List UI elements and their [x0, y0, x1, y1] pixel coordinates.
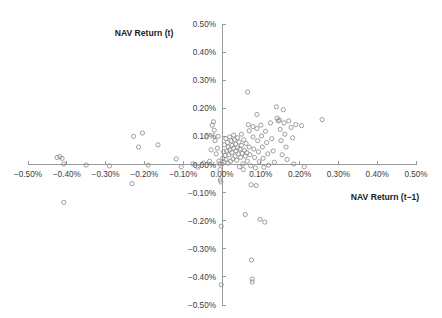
data-point: [219, 283, 223, 287]
data-point: [272, 160, 276, 164]
data-point: [251, 135, 255, 139]
data-point: [255, 126, 259, 130]
data-point: [285, 157, 289, 161]
x-tick-label: 0.50%: [404, 170, 427, 179]
data-point: [279, 139, 283, 143]
data-point: [235, 158, 239, 162]
data-point: [259, 123, 263, 127]
data-point: [146, 163, 150, 167]
data-point: [84, 163, 88, 167]
data-point: [244, 141, 248, 145]
data-point: [55, 155, 59, 159]
x-axis-ticks: −0.50%−0.40%−0.30%−0.20%−0.10%0.00%0.10%…: [14, 161, 428, 179]
data-point: [174, 157, 178, 161]
data-point: [266, 152, 270, 156]
data-point: [278, 127, 282, 131]
x-tick-label: −0.20%: [130, 170, 158, 179]
data-point: [294, 123, 298, 127]
x-tick-label: −0.30%: [92, 170, 120, 179]
data-point: [156, 143, 160, 147]
data-point: [247, 129, 251, 133]
data-point: [216, 134, 220, 138]
data-point: [131, 134, 135, 138]
x-tick-label: 0.10%: [249, 170, 272, 179]
x-axis-title: NAV Return (t−1): [351, 192, 419, 202]
data-point: [246, 123, 250, 127]
scatter-chart: −0.50%−0.40%−0.30%−0.20%−0.10%0.00%0.10%…: [0, 0, 442, 318]
data-point: [179, 165, 183, 169]
data-point: [214, 152, 218, 156]
data-point: [270, 137, 274, 141]
y-tick-label: −0.30%: [188, 245, 216, 254]
data-point: [250, 280, 254, 284]
data-point: [140, 131, 144, 135]
chart-canvas: −0.50%−0.40%−0.30%−0.20%−0.10%0.00%0.10%…: [0, 0, 442, 318]
data-point: [281, 108, 285, 112]
data-point: [265, 140, 269, 144]
data-point: [246, 90, 250, 94]
x-tick-label: −0.10%: [169, 170, 197, 179]
y-tick-label: −0.10%: [188, 189, 216, 198]
data-point: [130, 182, 134, 186]
y-tick-label: −0.40%: [188, 273, 216, 282]
data-point: [271, 149, 275, 153]
y-tick-label: 0.40%: [193, 48, 216, 57]
data-point: [260, 145, 264, 149]
y-tick-label: 0.30%: [193, 76, 216, 85]
data-point: [219, 224, 223, 228]
data-point: [62, 162, 66, 166]
data-point: [256, 150, 260, 154]
data-point: [291, 136, 295, 140]
data-point: [266, 163, 270, 167]
data-point: [261, 156, 265, 160]
x-tick-label: 0.40%: [366, 170, 389, 179]
x-tick-label: 0.30%: [327, 170, 350, 179]
data-point: [62, 200, 66, 204]
data-point: [248, 153, 252, 157]
data-point: [247, 145, 251, 149]
data-point: [268, 121, 272, 125]
data-point: [249, 258, 253, 262]
y-tick-label: 0.20%: [193, 104, 216, 113]
data-point: [280, 153, 284, 157]
data-point: [259, 134, 263, 138]
data-point: [245, 159, 249, 163]
data-point: [292, 162, 296, 166]
y-tick-label: 0.50%: [193, 20, 216, 29]
data-point: [239, 155, 243, 159]
y-axis-title: NAV Return (t): [115, 28, 174, 38]
data-point: [263, 129, 267, 133]
data-point: [241, 167, 245, 171]
data-point: [263, 220, 267, 224]
data-point: [299, 124, 303, 128]
data-point: [249, 183, 253, 187]
data-point: [241, 162, 245, 166]
data-point: [283, 132, 287, 136]
data-point: [243, 212, 247, 216]
data-point: [274, 105, 278, 109]
data-point: [209, 148, 213, 152]
data-point: [232, 133, 236, 137]
x-tick-label: −0.40%: [53, 170, 81, 179]
data-point: [302, 165, 306, 169]
data-point: [256, 139, 260, 143]
data-point: [254, 183, 258, 187]
data-point: [252, 155, 256, 159]
y-tick-label: −0.20%: [188, 217, 216, 226]
x-tick-label: −0.50%: [14, 170, 42, 179]
data-point: [258, 217, 262, 221]
data-point: [289, 125, 293, 129]
data-point: [284, 145, 288, 149]
data-point: [320, 117, 324, 121]
data-point: [235, 136, 239, 140]
x-tick-label: 0.20%: [288, 170, 311, 179]
data-point: [239, 132, 243, 136]
data-point: [287, 119, 291, 123]
data-point: [282, 121, 286, 125]
data-point: [136, 145, 140, 149]
data-point: [255, 112, 259, 116]
data-point: [239, 143, 243, 147]
data-point: [215, 146, 219, 150]
y-tick-label: −0.50%: [188, 301, 216, 310]
data-point: [252, 147, 256, 151]
